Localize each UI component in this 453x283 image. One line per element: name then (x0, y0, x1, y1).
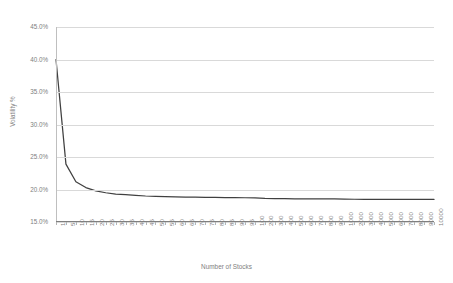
y-tick-label: 45.0% (2, 23, 48, 30)
x-tick (424, 222, 425, 225)
x-tick (225, 222, 226, 225)
x-tick (245, 222, 246, 225)
gridline (56, 92, 434, 93)
x-tick-label: 3000 (367, 212, 374, 226)
y-axis-line (56, 27, 57, 222)
x-tick-label: 55 (168, 219, 175, 226)
x-tick (56, 222, 57, 225)
x-tick (275, 222, 276, 225)
x-tick-label: 20 (98, 219, 105, 226)
x-tick (364, 222, 365, 225)
plot-area (56, 27, 434, 222)
x-tick (344, 222, 345, 225)
x-tick (205, 222, 206, 225)
x-tick (126, 222, 127, 225)
x-tick-label: 700 (317, 215, 324, 226)
x-tick (374, 222, 375, 225)
x-tick (335, 222, 336, 225)
x-tick-label: 5 (69, 222, 76, 226)
x-tick-label: 2000 (357, 212, 364, 226)
y-tick-label: 25.0% (2, 153, 48, 160)
x-tick (136, 222, 137, 225)
x-tick-label: 10 (78, 219, 85, 226)
y-axis-labels: 45.0%40.0%35.0%30.0%25.0%20.0%15.0% (0, 0, 52, 283)
x-tick (325, 222, 326, 225)
x-tick (155, 222, 156, 225)
gridline (56, 190, 434, 191)
x-tick (66, 222, 67, 225)
x-tick-label: 100 (258, 215, 265, 226)
x-tick (315, 222, 316, 225)
x-tick-label: 15 (88, 219, 95, 226)
x-tick (414, 222, 415, 225)
x-tick (175, 222, 176, 225)
y-tick-label: 40.0% (2, 56, 48, 63)
x-axis-title: Number of Stocks (0, 263, 453, 270)
x-tick (265, 222, 266, 225)
x-tick (285, 222, 286, 225)
x-tick-label: 4000 (377, 212, 384, 226)
x-tick (384, 222, 385, 225)
x-tick-label: 65 (188, 219, 195, 226)
x-tick-label: 30 (118, 219, 125, 226)
x-tick-label: 300 (277, 215, 284, 226)
x-tick-label: 70 (198, 219, 205, 226)
x-tick-label: 10000 (437, 208, 444, 226)
x-tick (434, 222, 435, 225)
x-tick (235, 222, 236, 225)
x-tick-label: 35 (128, 219, 135, 226)
x-tick (116, 222, 117, 225)
x-tick (295, 222, 296, 225)
x-tick-label: 800 (327, 215, 334, 226)
x-tick-label: 8000 (417, 212, 424, 226)
x-tick (106, 222, 107, 225)
x-tick (394, 222, 395, 225)
x-tick-label: 500 (297, 215, 304, 226)
x-tick-label: 40 (138, 219, 145, 226)
x-tick-label: 1000 (347, 212, 354, 226)
y-tick-label: 15.0% (2, 218, 48, 225)
x-tick (195, 222, 196, 225)
x-tick-label: 7000 (407, 212, 414, 226)
gridline (56, 125, 434, 126)
x-tick-label: 75 (208, 219, 215, 226)
x-tick-label: 25 (108, 219, 115, 226)
volatility-vs-stocks-chart: 45.0%40.0%35.0%30.0%25.0%20.0%15.0% Vola… (0, 0, 453, 283)
x-tick-label: 600 (307, 215, 314, 226)
gridline (56, 60, 434, 61)
gridline (56, 157, 434, 158)
x-tick (76, 222, 77, 225)
gridline (56, 27, 434, 28)
x-tick-label: 400 (287, 215, 294, 226)
x-tick (354, 222, 355, 225)
x-tick (215, 222, 216, 225)
x-tick-label: 80 (218, 219, 225, 226)
x-tick-label: 85 (228, 219, 235, 226)
x-tick-label: 45 (148, 219, 155, 226)
y-axis-title: Volatility % (9, 82, 16, 142)
x-tick-label: 9000 (427, 212, 434, 226)
x-tick (255, 222, 256, 225)
x-tick-label: 1 (59, 222, 66, 226)
x-tick (96, 222, 97, 225)
x-axis-labels: 1510152025303540455055606570758085909510… (56, 226, 434, 266)
x-tick-label: 6000 (397, 212, 404, 226)
x-tick-label: 95 (248, 219, 255, 226)
x-tick-label: 5000 (387, 212, 394, 226)
x-tick-label: 900 (337, 215, 344, 226)
x-tick (146, 222, 147, 225)
x-tick-label: 60 (178, 219, 185, 226)
x-tick (165, 222, 166, 225)
x-tick-label: 90 (238, 219, 245, 226)
x-tick-label: 200 (267, 215, 274, 226)
x-tick (305, 222, 306, 225)
x-tick (404, 222, 405, 225)
y-tick-label: 20.0% (2, 186, 48, 193)
x-tick-label: 50 (158, 219, 165, 226)
x-tick (86, 222, 87, 225)
x-tick (185, 222, 186, 225)
